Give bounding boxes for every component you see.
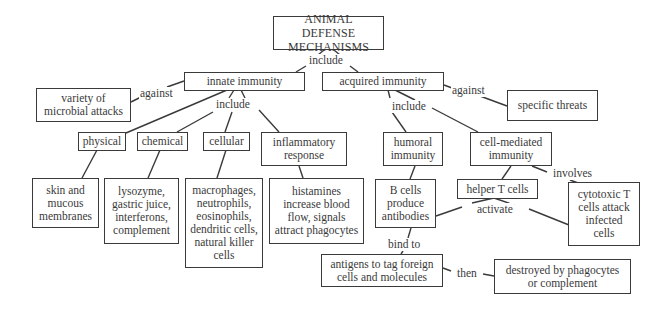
node-physical: physical xyxy=(78,132,126,151)
node-lysozyme-gastric-juice-interferons-complement: lysozyme, gastric juice, interferons, co… xyxy=(104,178,179,244)
node-destroyed-by-phagocytes: destroyed by phagocytes or complement xyxy=(494,259,631,294)
node-antigens-to-tag-foreign-cells: antigens to tag foreign cells and molecu… xyxy=(321,254,443,287)
node-innate-immunity: innate immunity xyxy=(184,72,305,91)
link-label-bind-to: bind to xyxy=(387,238,421,251)
node-histamines-increase-blood-flow: histamines increase blood flow, signals … xyxy=(269,178,364,244)
link-label-activate: activate xyxy=(476,203,514,216)
node-cellular: cellular xyxy=(203,132,250,151)
node-inflammatory-response: inflammatory response xyxy=(261,132,347,166)
concept-map: ANIMAL DEFENSE MECHANISMS innate immunit… xyxy=(0,0,671,312)
node-macrophages-neutrophils-eosinophils: macrophages, neutrophils, eosinophils, d… xyxy=(185,178,263,268)
link-label-include-innate: include xyxy=(215,98,251,111)
link-label-involves: involves xyxy=(552,167,593,180)
link-label-include-acquired: include xyxy=(391,100,427,113)
node-specific-threats: specific threats xyxy=(507,90,598,121)
node-chemical: chemical xyxy=(137,132,188,151)
node-b-cells-produce-antibodies: B cells produce antibodies xyxy=(375,179,436,228)
link-label-against-acquired: against xyxy=(451,84,486,97)
node-humoral-immunity: humoral immunity xyxy=(383,132,443,166)
link-label-against-innate: against xyxy=(139,87,174,100)
node-cell-mediated-immunity: cell-mediated immunity xyxy=(470,132,552,166)
link-label-include-root: include xyxy=(308,54,344,67)
node-helper-t-cells: helper T cells xyxy=(457,179,538,199)
node-variety-of-microbial-attacks: variety of microbial attacks xyxy=(36,88,131,122)
node-acquired-immunity: acquired immunity xyxy=(322,72,444,91)
node-cytotoxic-t-cells: cytotoxic T cells attack infected cells xyxy=(568,182,640,246)
root-node-animal-defense-mechanisms: ANIMAL DEFENSE MECHANISMS xyxy=(273,16,384,50)
link-label-then: then xyxy=(456,267,478,280)
node-skin-and-mucous-membranes: skin and mucous membranes xyxy=(32,178,99,228)
